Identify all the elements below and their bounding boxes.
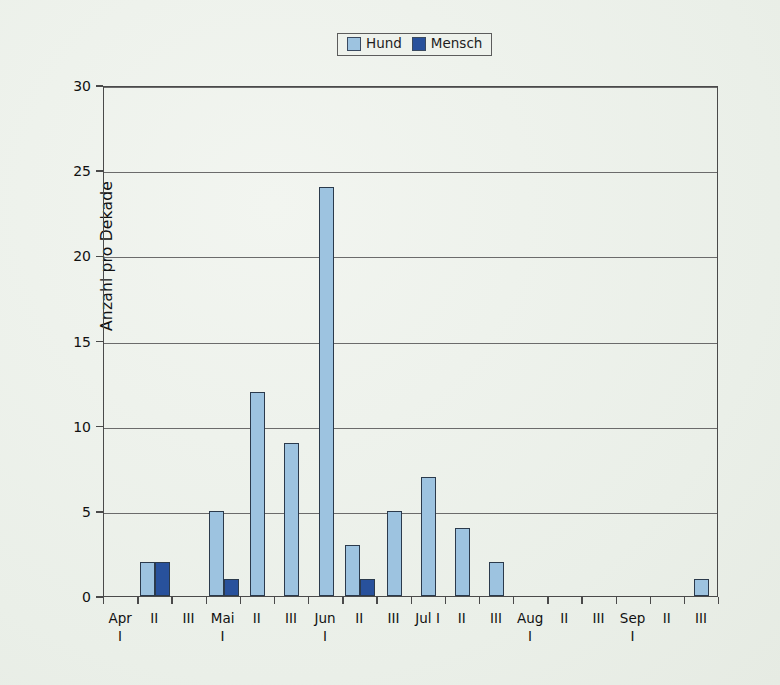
x-tick-mark bbox=[342, 597, 343, 604]
x-tick-mark bbox=[376, 597, 377, 604]
x-axis-label-month: III bbox=[695, 610, 707, 626]
y-tick-label-30: 30 bbox=[55, 78, 91, 94]
y-tick-mark-20 bbox=[96, 256, 103, 257]
y-tick-mark-15 bbox=[96, 341, 103, 342]
plot-area bbox=[103, 86, 718, 597]
bar-mensch bbox=[224, 579, 239, 596]
y-tick-mark-30 bbox=[96, 85, 103, 86]
bar-hund bbox=[345, 545, 360, 596]
x-tick-mark bbox=[445, 597, 446, 604]
bar-hund bbox=[140, 562, 155, 596]
x-tick-mark bbox=[103, 597, 104, 604]
bar-hund bbox=[284, 443, 299, 596]
x-axis-label-month: II bbox=[355, 610, 363, 626]
x-axis-label-month: II bbox=[253, 610, 261, 626]
bar-hund bbox=[489, 562, 504, 596]
bar-hund bbox=[319, 187, 334, 596]
legend-item-mensch: Mensch bbox=[412, 37, 483, 51]
bar-mensch bbox=[360, 579, 375, 596]
bar-hund bbox=[387, 511, 402, 596]
x-tick-mark bbox=[274, 597, 275, 604]
x-tick-mark bbox=[616, 597, 617, 604]
bar-hund bbox=[421, 477, 436, 596]
y-tick-label-5: 5 bbox=[55, 504, 91, 520]
x-axis-label-decade: I bbox=[500, 627, 560, 645]
x-tick-mark bbox=[513, 597, 514, 604]
x-tick-mark bbox=[240, 597, 241, 604]
y-tick-label-25: 25 bbox=[55, 163, 91, 179]
legend-swatch-hund bbox=[347, 37, 361, 51]
legend-swatch-mensch bbox=[412, 37, 426, 51]
bar-mensch bbox=[155, 562, 170, 596]
x-tick-mark bbox=[718, 597, 719, 604]
x-tick-mark bbox=[547, 597, 548, 604]
y-tick-label-20: 20 bbox=[55, 248, 91, 264]
x-tick-mark bbox=[137, 597, 138, 604]
x-tick-mark bbox=[411, 597, 412, 604]
bar-hund bbox=[455, 528, 470, 596]
y-tick-label-15: 15 bbox=[55, 334, 91, 350]
x-axis-label-decade: I bbox=[90, 627, 150, 645]
bar-series-group bbox=[104, 87, 717, 596]
y-tick-label-0: 0 bbox=[55, 589, 91, 605]
chart-page: Hund Mensch Anzahl pro Dekade 0510152025… bbox=[0, 0, 780, 685]
x-tick-mark bbox=[650, 597, 651, 604]
x-tick-mark bbox=[171, 597, 172, 604]
y-tick-mark-25 bbox=[96, 170, 103, 171]
chart-legend: Hund Mensch bbox=[337, 33, 492, 56]
x-tick-mark bbox=[479, 597, 480, 604]
y-tick-mark-5 bbox=[96, 511, 103, 512]
x-axis-label-month: II bbox=[458, 610, 466, 626]
bar-hund bbox=[694, 579, 709, 596]
x-axis-label-decade: I bbox=[295, 627, 355, 645]
x-tick-mark bbox=[308, 597, 309, 604]
x-tick-mark bbox=[206, 597, 207, 604]
x-axis-label-month: II bbox=[150, 610, 158, 626]
bar-hund bbox=[250, 392, 265, 596]
legend-item-hund: Hund bbox=[347, 37, 402, 51]
x-axis-label-month: II bbox=[663, 610, 671, 626]
x-axis-label-decade: I bbox=[603, 627, 663, 645]
y-tick-mark-0 bbox=[96, 596, 103, 597]
y-tick-mark-10 bbox=[96, 426, 103, 427]
x-tick-mark bbox=[684, 597, 685, 604]
x-axis-label-decade: I bbox=[193, 627, 253, 645]
bar-hund bbox=[209, 511, 224, 596]
x-tick-mark bbox=[581, 597, 582, 604]
legend-label-mensch: Mensch bbox=[431, 37, 483, 51]
x-axis-label: III bbox=[671, 609, 731, 627]
x-axis-label-month: II bbox=[560, 610, 568, 626]
legend-label-hund: Hund bbox=[366, 37, 402, 51]
y-tick-label-10: 10 bbox=[55, 419, 91, 435]
